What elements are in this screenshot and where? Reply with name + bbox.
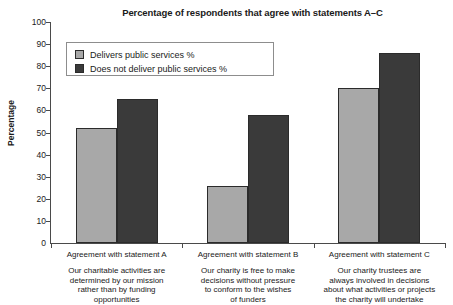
- bar-chart-figure: Percentage of respondents that agree wit…: [0, 0, 453, 305]
- y-axis-tick-mark: [46, 177, 50, 178]
- legend-swatch-icon: [75, 64, 84, 73]
- category-caption: Agreement with statement AOur charitable…: [51, 250, 182, 304]
- y-axis-tick-label: 90: [14, 40, 46, 49]
- legend-label: Delivers public services %: [90, 50, 195, 60]
- y-axis-tick-mark: [46, 110, 50, 111]
- category-name: Agreement with statement B: [182, 250, 313, 260]
- y-axis-tick-label: 80: [14, 62, 46, 71]
- category-caption: Agreement with statement COur charity tr…: [314, 250, 445, 304]
- y-axis-tick-label: 70: [14, 84, 46, 93]
- y-axis-tick-label: 10: [14, 216, 46, 225]
- category-name: Agreement with statement C: [314, 250, 445, 260]
- category-description-line: rather than by funding: [51, 285, 182, 295]
- bar-group: [314, 22, 445, 243]
- legend-swatch-icon: [75, 50, 84, 59]
- bar: [248, 115, 289, 243]
- category-description-line: to conform to the wishes: [182, 285, 313, 295]
- category-description-line: determined by our mission: [51, 276, 182, 286]
- category-description: Our charity trustees arealways involved …: [314, 266, 445, 304]
- x-axis-line: [50, 243, 446, 244]
- y-axis-tick-mark: [46, 221, 50, 222]
- bar: [207, 186, 248, 243]
- legend-item: Does not deliver public services %: [75, 62, 227, 75]
- x-axis-tick-mark: [445, 244, 446, 248]
- y-axis-tick-mark: [46, 155, 50, 156]
- category-caption: Agreement with statement BOur charity is…: [182, 250, 313, 304]
- category-description-line: the charity will undertake: [314, 295, 445, 305]
- bar: [379, 53, 420, 243]
- x-axis-tick-mark: [51, 244, 52, 248]
- y-axis-tick-mark: [46, 44, 50, 45]
- category-description-line: decisions without pressure: [182, 276, 313, 286]
- bar: [76, 128, 117, 243]
- y-axis-tick-label: 50: [14, 128, 46, 137]
- y-axis-tick-label: 40: [14, 150, 46, 159]
- y-axis-tick-label: 60: [14, 106, 46, 115]
- x-axis-tick-mark: [314, 244, 315, 248]
- category-description: Our charity is free to makedecisions wit…: [182, 266, 313, 304]
- category-description-line: Our charitable activities are: [51, 266, 182, 276]
- y-axis-tick-label: 20: [14, 194, 46, 203]
- y-axis-tick-label: 30: [14, 172, 46, 181]
- category-description-line: Our charity trustees are: [314, 266, 445, 276]
- category-description-line: opportunities: [51, 295, 182, 305]
- bar: [338, 88, 379, 243]
- category-description: Our charitable activities aredetermined …: [51, 266, 182, 304]
- y-axis-tick-mark: [46, 133, 50, 134]
- chart-title: Percentage of respondents that agree wit…: [60, 7, 445, 18]
- category-description-line: Our charity is free to make: [182, 266, 313, 276]
- y-axis-tick-label: 0: [14, 239, 46, 248]
- category-name: Agreement with statement A: [51, 250, 182, 260]
- category-description-line: always involved in decisions: [314, 276, 445, 286]
- y-axis-tick-mark: [46, 66, 50, 67]
- x-axis-tick-mark: [182, 244, 183, 248]
- y-axis-tick-labels: 1009080706050403020100: [14, 16, 46, 248]
- y-axis-tick-mark: [46, 199, 50, 200]
- category-description-line: of funders: [182, 295, 313, 305]
- category-description-line: about what activities or projects: [314, 285, 445, 295]
- y-axis-tick-label: 100: [14, 18, 46, 27]
- legend-item: Delivers public services %: [75, 48, 195, 61]
- y-axis-tick-mark: [46, 22, 50, 23]
- bar: [117, 99, 158, 243]
- y-axis-tick-mark: [46, 88, 50, 89]
- legend-label: Does not deliver public services %: [90, 64, 227, 74]
- chart-legend: Delivers public services %Does not deliv…: [66, 42, 274, 76]
